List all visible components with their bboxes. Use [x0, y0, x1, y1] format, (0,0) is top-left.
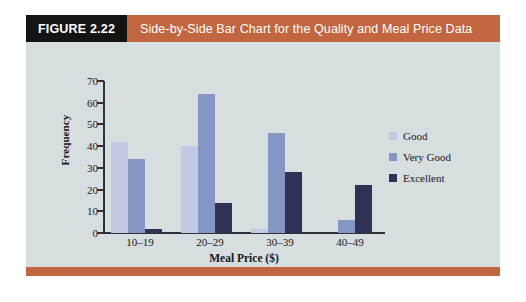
legend-item: Excellent [389, 172, 497, 184]
x-axis-tick-label: 20–29 [175, 236, 245, 248]
bar-group [315, 81, 385, 233]
chart-canvas: Frequency 010203040506070 Meal Price ($)… [26, 42, 500, 267]
bar-very-good [198, 94, 215, 233]
plot-area: Frequency 010203040506070 Meal Price ($)… [26, 42, 500, 267]
legend-item: Good [389, 130, 497, 142]
bar-very-good [128, 159, 145, 233]
legend-label: Excellent [403, 172, 445, 184]
bar-group [105, 81, 175, 233]
bars-container [105, 81, 385, 233]
bar-good [181, 146, 198, 233]
bar-very-good [338, 220, 355, 233]
bar-group [175, 81, 245, 233]
bar-good [111, 142, 128, 233]
legend-swatch-icon [389, 153, 397, 161]
bar-good [251, 229, 268, 233]
figure-title: Side-by-Side Bar Chart for the Quality a… [127, 15, 500, 42]
legend-swatch-icon [389, 174, 397, 182]
bar-excellent [145, 229, 162, 233]
bar-group [245, 81, 315, 233]
legend-label: Good [403, 130, 427, 142]
x-axis-title: Meal Price ($) [103, 252, 385, 264]
bar-excellent [355, 185, 372, 233]
figure-number-label: FIGURE 2.22 [26, 15, 127, 42]
legend-label: Very Good [403, 151, 451, 163]
figure-container: FIGURE 2.22 Side-by-Side Bar Chart for t… [26, 15, 500, 287]
bar-very-good [268, 133, 285, 233]
bar-excellent [285, 172, 302, 233]
figure-bottom-accent [26, 267, 500, 276]
x-axis-tick-label: 10–19 [105, 236, 175, 248]
legend-item: Very Good [389, 151, 497, 163]
bar-excellent [215, 203, 232, 233]
figure-header: FIGURE 2.22 Side-by-Side Bar Chart for t… [26, 15, 500, 42]
chart-legend: GoodVery GoodExcellent [389, 130, 497, 193]
x-axis-tick-label: 40–49 [315, 236, 385, 248]
x-axis-tick-label: 30–39 [245, 236, 315, 248]
legend-swatch-icon [389, 132, 397, 140]
